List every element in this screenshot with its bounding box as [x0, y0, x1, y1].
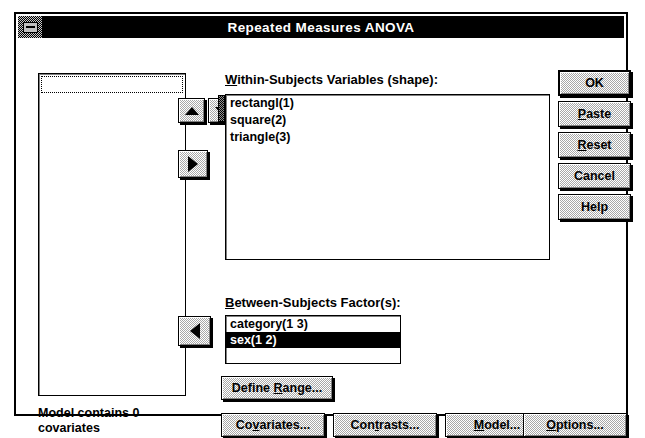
list-item[interactable]: category(1 3): [226, 316, 400, 332]
between-subjects-label: Between-Subjects Factor(s):: [225, 295, 401, 310]
help-button[interactable]: Help: [558, 194, 631, 220]
move-to-between-subjects-button[interactable]: [178, 316, 211, 346]
paste-button-label: Paste: [578, 107, 611, 121]
up-arrow-icon: [185, 107, 199, 115]
left-arrow-icon: [190, 323, 200, 339]
within-subjects-accelerator: W: [225, 72, 237, 87]
right-arrow-icon: [188, 156, 198, 172]
status-text: Model contains 0 covariates: [38, 406, 203, 436]
status-line-2: covariates: [38, 421, 203, 436]
dialog-client-area: Within-Subjects Variables (shape): recta…: [18, 38, 624, 412]
reset-button[interactable]: Reset: [558, 132, 631, 158]
status-line-1: Model contains 0: [38, 406, 203, 421]
between-subjects-label-rest: etween-Subjects Factor(s):: [234, 295, 400, 310]
source-list-focus-row: [41, 76, 183, 93]
within-subjects-variables-list[interactable]: rectangl(1) square(2) triangle(3): [225, 94, 550, 260]
list-item[interactable]: triangle(3): [226, 129, 549, 146]
options-button-label: Options...: [546, 418, 604, 432]
repeated-measures-anova-dialog: Repeated Measures ANOVA Within-Subjects …: [14, 12, 628, 416]
system-menu-glyph: [23, 22, 38, 33]
window-title: Repeated Measures ANOVA: [227, 20, 414, 35]
contrasts-button[interactable]: Contrasts...: [333, 413, 437, 437]
ok-button-label: OK: [585, 76, 604, 90]
title-bar[interactable]: Repeated Measures ANOVA: [18, 16, 624, 38]
source-variable-list[interactable]: [38, 73, 186, 396]
within-list-edge-marker: [218, 95, 225, 122]
list-item[interactable]: rectangl(1): [226, 95, 549, 112]
help-button-label: Help: [581, 200, 608, 214]
system-menu-icon[interactable]: [18, 16, 43, 38]
covariates-button[interactable]: Covariates...: [221, 413, 325, 437]
cancel-button-label: Cancel: [574, 169, 615, 183]
between-subjects-factors-list[interactable]: category(1 3) sex(1 2): [225, 315, 401, 364]
define-range-label: Define Range...: [232, 381, 322, 395]
list-item[interactable]: sex(1 2): [226, 332, 400, 348]
options-button[interactable]: Options...: [523, 413, 627, 437]
define-range-button[interactable]: Define Range...: [221, 376, 333, 400]
covariates-button-label: Covariates...: [236, 418, 310, 432]
paste-button[interactable]: Paste: [558, 101, 631, 127]
cancel-button[interactable]: Cancel: [558, 163, 631, 189]
within-subjects-label: Within-Subjects Variables (shape):: [225, 72, 438, 87]
move-to-within-subjects-button[interactable]: [178, 150, 208, 178]
ok-button[interactable]: OK: [558, 70, 631, 96]
reset-button-label: Reset: [577, 138, 611, 152]
move-up-button[interactable]: [178, 98, 205, 123]
contrasts-button-label: Contrasts...: [351, 418, 420, 432]
model-button-label: Model...: [474, 418, 521, 432]
within-subjects-label-rest: ithin-Subjects Variables (shape):: [237, 72, 438, 87]
list-item[interactable]: square(2): [226, 112, 549, 129]
between-subjects-accelerator: B: [225, 295, 234, 310]
